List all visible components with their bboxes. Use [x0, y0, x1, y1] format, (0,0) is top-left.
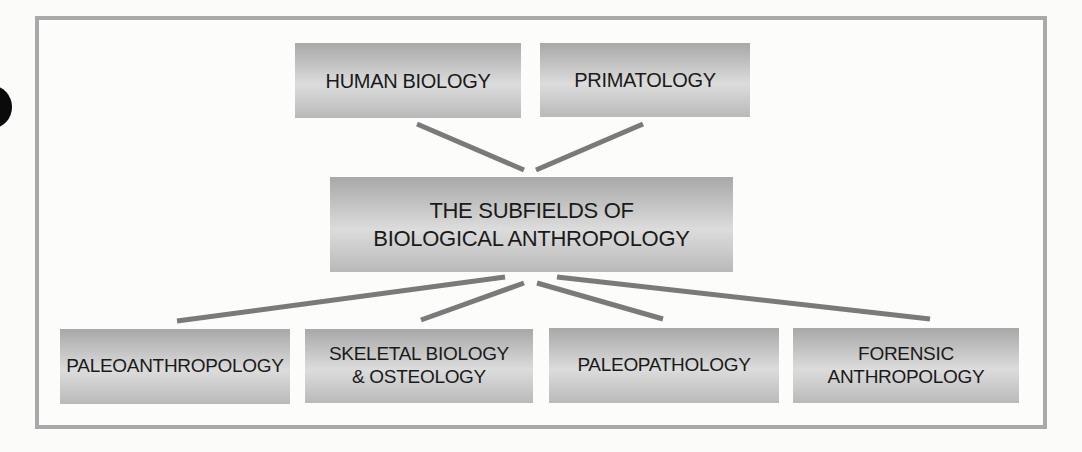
node-paleopathology: PALEOPATHOLOGY [549, 328, 779, 403]
node-label: PALEOPATHOLOGY [577, 354, 750, 377]
node-label-line-2: ANTHROPOLOGY [828, 366, 985, 389]
node-paleoanthropology: PALEOANTHROPOLOGY [60, 329, 290, 404]
node-skeletal-biology-osteology: SKELETAL BIOLOGY & OSTEOLOGY [305, 329, 533, 403]
node-label-line-1: SKELETAL BIOLOGY [329, 343, 509, 366]
node-label-line-1: FORENSIC [828, 343, 985, 366]
node-label: PALEOANTHROPOLOGY [66, 355, 283, 378]
node-human-biology: HUMAN BIOLOGY [295, 43, 521, 118]
node-forensic-anthropology: FORENSIC ANTHROPOLOGY [793, 328, 1019, 403]
node-central-topic: THE SUBFIELDS OF BIOLOGICAL ANTHROPOLOGY [330, 177, 733, 272]
central-title-line-2: BIOLOGICAL ANTHROPOLOGY [373, 225, 689, 253]
bullet-marker [0, 86, 12, 128]
node-label-line-2: & OSTEOLOGY [329, 366, 509, 389]
central-title-line-1: THE SUBFIELDS OF [373, 197, 689, 225]
node-label: PRIMATOLOGY [574, 68, 716, 92]
node-primatology: PRIMATOLOGY [540, 43, 750, 117]
node-label: HUMAN BIOLOGY [325, 69, 490, 93]
